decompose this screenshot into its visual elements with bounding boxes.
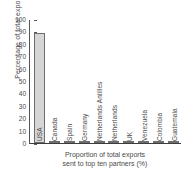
bar-chart-figure: Percentage of total exports 010203040506… (0, 0, 190, 179)
bar-slot: Venezuela (136, 19, 151, 143)
bar-category-label: Germany (81, 114, 88, 141)
bar-category-label: Canada (51, 118, 58, 141)
bar-category-label: Guatemala (171, 108, 178, 141)
bar-slot: Colombia (151, 19, 166, 143)
bar-slot: Netherlands Antilles (92, 19, 107, 143)
bar-category-label: USA (36, 127, 43, 141)
bar (168, 141, 179, 143)
bar-slot: Guatemala (166, 19, 181, 143)
y-axis-tick-label: 0 (8, 141, 26, 147)
bar-slot: Netherlands (107, 19, 122, 143)
bar (94, 141, 105, 143)
bar-category-label: Netherlands Antilles (96, 82, 103, 141)
y-axis-tick-label: 60 (8, 67, 26, 73)
bar (79, 141, 90, 143)
y-axis-tick-label: 90 (8, 29, 26, 35)
bar-slot: Spain (62, 19, 77, 143)
plot-area: USACanadaSpainGermanyNetherlands Antille… (29, 20, 181, 144)
y-axis-tick-label: 10 (8, 129, 26, 135)
bar-slot: Canada (47, 19, 62, 143)
bar-slot: Germany (77, 19, 92, 143)
y-axis-tick-label: 20 (8, 116, 26, 122)
y-axis-tick-label: 40 (8, 91, 26, 97)
bar-category-label: Venezuela (141, 110, 148, 141)
x-axis-title-line-2: sent to top ten partners (%) (29, 159, 181, 168)
bar-category-label: UK (126, 132, 133, 141)
bar (153, 141, 164, 143)
y-axis-tick-label: 100 (8, 17, 26, 23)
bar-category-label: Netherlands (111, 105, 118, 141)
bar-category-label: Spain (66, 124, 73, 141)
x-axis-title: Proportion of total exports sent to top … (29, 150, 181, 168)
y-axis-tick-mark (34, 144, 37, 145)
bar (138, 141, 149, 143)
bar (123, 141, 134, 143)
y-axis-tick-label: 50 (8, 79, 26, 85)
x-axis-title-line-1: Proportion of total exports (29, 150, 181, 159)
y-axis-tick-label: 70 (8, 54, 26, 60)
bar-series: USACanadaSpainGermanyNetherlands Antille… (30, 19, 181, 143)
bar-category-label: Colombia (156, 113, 163, 141)
y-axis-tick-label: 30 (8, 104, 26, 110)
y-axis-tick-label: 80 (8, 42, 26, 48)
bar (108, 141, 119, 143)
bar-slot: UK (121, 19, 136, 143)
y-axis-tick-labels: 0102030405060708090100 (8, 20, 26, 144)
bar-slot: USA (32, 19, 47, 143)
